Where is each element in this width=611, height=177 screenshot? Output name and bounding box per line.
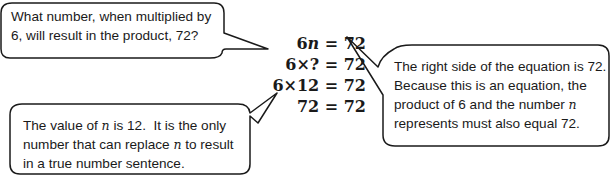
explanation-line-1: The right side of the equation is 72. (394, 57, 606, 76)
explanation-callout: The right side of the equation is 72. Be… (394, 57, 606, 133)
explanation-line-3: product of 6 and the number n (394, 95, 606, 114)
question-line-2: 6, will result in the product, 72? (11, 26, 211, 45)
variable-n: n (569, 97, 577, 112)
explanation-line-3-text: product of 6 and the number (394, 97, 569, 112)
conclusion-line-2: number that can replace n to result (23, 135, 234, 154)
question-callout: What number, when multiplied by 6, will … (11, 7, 211, 45)
equation-2: 6×? = 72 (272, 54, 366, 75)
equation-1-variable: n (308, 34, 320, 53)
question-line-1: What number, when multiplied by (11, 7, 211, 26)
conclusion-line-1-post: is 12. It is the only (110, 118, 226, 133)
conclusion-line-2-post: to result (181, 137, 233, 152)
conclusion-line-2-pre: number that can replace (23, 137, 173, 152)
equation-stack: 6n = 72 6×? = 72 6×12 = 72 72 = 72 (272, 33, 366, 117)
conclusion-line-3: in a true number sentence. (23, 154, 234, 173)
explanation-line-4: represents must also equal 72. (394, 114, 606, 133)
equation-1-rhs: = 72 (319, 34, 366, 53)
conclusion-callout: The value of n is 12. It is the only num… (23, 116, 234, 173)
equation-1: 6n = 72 (272, 33, 366, 54)
explanation-line-2: Because this is an equation, the (394, 76, 606, 95)
equation-1-coefficient: 6 (296, 34, 307, 53)
conclusion-line-1: The value of n is 12. It is the only (23, 116, 234, 135)
variable-n: n (102, 118, 110, 133)
conclusion-line-1-pre: The value of (23, 118, 102, 133)
equation-4: 72 = 72 (272, 96, 366, 117)
equation-3: 6×12 = 72 (272, 75, 366, 96)
